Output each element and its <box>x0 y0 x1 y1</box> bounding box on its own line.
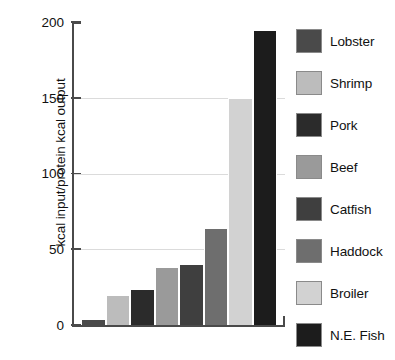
legend-label-n-e-fish: N.E. Fish <box>330 328 385 343</box>
y-tick-100: 100 <box>71 173 81 175</box>
y-tick-150: 150 <box>71 97 81 99</box>
legend-item-pork[interactable]: Pork <box>296 104 395 146</box>
legend-swatch-n-e-fish <box>296 323 322 347</box>
y-tick-label-50: 50 <box>49 242 64 257</box>
legend-item-n-e-fish[interactable]: N.E. Fish <box>296 314 395 356</box>
x-axis-line <box>72 325 285 327</box>
bar-chart: kcal input/protein kcal output 050100150… <box>0 0 395 360</box>
y-tick-50: 50 <box>71 248 81 250</box>
y-tick-label-150: 150 <box>41 90 64 105</box>
legend-label-catfish: Catfish <box>330 202 371 217</box>
legend-label-haddock: Haddock <box>330 244 383 259</box>
y-axis-title: kcal input/protein kcal output <box>53 13 68 313</box>
bar-beef <box>155 267 180 325</box>
legend-item-beef[interactable]: Beef <box>296 146 395 188</box>
legend-swatch-lobster <box>296 29 322 53</box>
bar-n-e-fish <box>253 30 278 325</box>
y-tick-0: 0 <box>71 324 81 326</box>
legend-swatch-haddock <box>296 239 322 263</box>
bar-shrimp <box>106 295 131 325</box>
legend-item-haddock[interactable]: Haddock <box>296 230 395 272</box>
bar-haddock <box>204 228 229 325</box>
legend-swatch-catfish <box>296 197 322 221</box>
bar-lobster <box>81 319 106 325</box>
bar-series <box>81 22 277 325</box>
bar-catfish <box>179 264 204 325</box>
legend-swatch-beef <box>296 155 322 179</box>
y-tick-200: 200 <box>71 21 81 23</box>
legend-item-catfish[interactable]: Catfish <box>296 188 395 230</box>
x-axis-end-cap <box>283 316 285 327</box>
legend-item-lobster[interactable]: Lobster <box>296 20 395 62</box>
y-tick-label-100: 100 <box>41 166 64 181</box>
legend: LobsterShrimpPorkBeefCatfishHaddockBroil… <box>296 20 395 356</box>
y-tick-label-200: 200 <box>41 15 64 30</box>
legend-label-shrimp: Shrimp <box>330 76 372 91</box>
legend-item-shrimp[interactable]: Shrimp <box>296 62 395 104</box>
bar-pork <box>130 289 155 325</box>
y-axis-line <box>72 22 74 327</box>
bar-broiler <box>228 98 253 325</box>
legend-label-lobster: Lobster <box>330 34 374 49</box>
legend-swatch-broiler <box>296 281 322 305</box>
legend-label-broiler: Broiler <box>330 286 368 301</box>
y-tick-label-0: 0 <box>56 317 64 332</box>
legend-swatch-pork <box>296 113 322 137</box>
legend-label-beef: Beef <box>330 160 357 175</box>
legend-item-broiler[interactable]: Broiler <box>296 272 395 314</box>
plot-area: 050100150200 <box>72 22 285 327</box>
legend-swatch-shrimp <box>296 71 322 95</box>
legend-label-pork: Pork <box>330 118 357 133</box>
